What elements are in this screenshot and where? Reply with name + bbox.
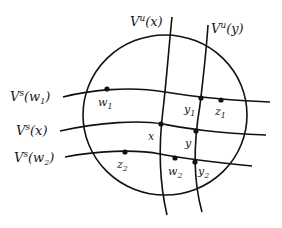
point-label-w2: w2 — [168, 165, 183, 180]
point-label-z1: z1 — [214, 105, 226, 120]
point-w1 — [104, 86, 109, 91]
point-y1 — [198, 95, 203, 100]
labels: w1y1z1xyz2w2y2Vu(x)Vu(y)Vs(w1)Vs(x)Vs(w2… — [10, 13, 244, 180]
point-y2 — [192, 159, 197, 164]
diagram-canvas: w1y1z1xyz2w2y2Vu(x)Vu(y)Vs(w1)Vs(x)Vs(w2… — [0, 0, 282, 228]
label-vs-w2: Vs(w2) — [14, 149, 54, 167]
label-vu-y: Vu(y) — [211, 20, 244, 36]
manifold-curves — [60, 17, 270, 215]
point-label-y: y — [184, 137, 192, 150]
manifold-vs-w2 — [65, 151, 252, 166]
point-label-x: x — [148, 130, 155, 143]
point-label-y2: y2 — [197, 165, 209, 180]
label-vs-w1: Vs(w1) — [10, 88, 50, 106]
diagram-svg: w1y1z1xyz2w2y2Vu(x)Vu(y)Vs(w1)Vs(x)Vs(w2… — [0, 0, 282, 228]
point-y — [193, 128, 198, 133]
point-w2 — [172, 155, 177, 160]
point-x — [158, 121, 163, 126]
point-z2 — [122, 149, 127, 154]
point-label-z2: z2 — [116, 158, 128, 173]
label-vs-x: Vs(x) — [16, 122, 48, 138]
point-label-w1: w1 — [98, 96, 113, 111]
point-z1 — [218, 97, 223, 102]
manifold-vu-x — [160, 17, 172, 215]
manifold-vs-w1 — [63, 89, 270, 102]
point-label-y1: y1 — [183, 103, 195, 118]
label-vu-x: Vu(x) — [130, 13, 163, 29]
